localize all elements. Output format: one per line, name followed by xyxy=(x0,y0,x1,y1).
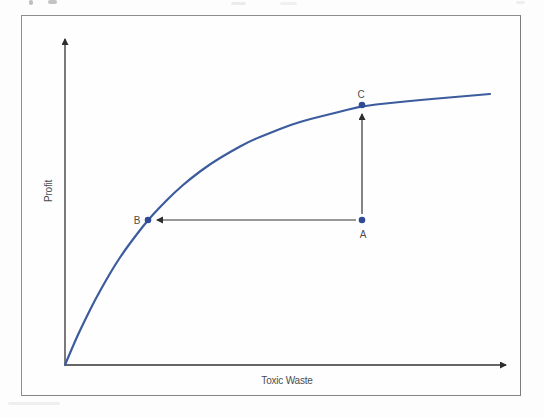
point-b-dot xyxy=(145,217,152,224)
point-a-dot xyxy=(359,217,366,224)
x-axis-label: Toxic Waste xyxy=(261,375,312,386)
annotation-arrows xyxy=(157,114,362,220)
y-axis-label: Profit xyxy=(43,180,54,202)
point-c-label: C xyxy=(357,89,364,100)
profit-toxic-waste-chart xyxy=(0,0,544,417)
scanned-page: Profit Toxic Waste A B C xyxy=(0,0,544,417)
data-points xyxy=(145,102,366,224)
point-c-dot xyxy=(359,102,366,109)
point-a-label: A xyxy=(360,229,367,240)
profit-curve xyxy=(65,94,490,365)
point-b-label: B xyxy=(134,215,141,226)
